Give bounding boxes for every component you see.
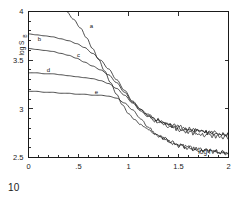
y-axis-tick-labels: 2.533.54: [13, 7, 23, 162]
x-tick-label: .5: [75, 162, 81, 171]
curve-label-d: d: [47, 67, 50, 73]
x-tick-label: 1: [126, 162, 130, 171]
x-axis-tick-labels: 0.511.52: [26, 162, 230, 171]
y-axis-title-subscript: B: [23, 34, 28, 37]
curve-c: [29, 48, 228, 136]
y-tick-label: 3.5: [13, 56, 23, 65]
figure-container: 2.533.54 0.511.52 log S B log f abcde 10: [0, 0, 242, 203]
spectral-plot: 2.533.54 0.511.52 log S B log f abcde: [0, 0, 242, 203]
curve-e: [29, 91, 228, 155]
curve-label-c: c: [77, 52, 80, 58]
y-tick-label: 3: [19, 105, 23, 114]
plot-frame: [29, 12, 229, 158]
x-tick-label: 1.5: [173, 162, 183, 171]
y-axis-title-text: log S: [18, 40, 26, 55]
y-axis-title: log S B: [18, 34, 28, 55]
axis-tick-marks: [29, 12, 229, 158]
figure-number: 10: [8, 182, 20, 193]
curve-label-b: b: [38, 36, 42, 42]
curve-label-e: e: [95, 89, 99, 95]
curve-labels: abcde: [38, 23, 99, 95]
y-tick-label: 4: [19, 7, 23, 16]
x-tick-label: 0: [26, 162, 30, 171]
data-curves: [29, 12, 229, 155]
x-tick-label: 2: [226, 162, 230, 171]
curve-label-a: a: [90, 23, 94, 29]
curve-b: [29, 34, 228, 135]
y-tick-label: 2.5: [13, 153, 23, 162]
